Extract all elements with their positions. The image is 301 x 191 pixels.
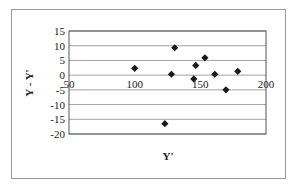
y-tick-label: 15 — [54, 25, 66, 37]
plot-area — [69, 31, 266, 134]
x-axis-ticks: 50100150200 — [64, 78, 275, 90]
data-point-diamond-icon — [171, 44, 178, 51]
y-axis-title: Y - Y' — [23, 69, 35, 96]
y-tick-label: -20 — [50, 128, 65, 140]
y-tick-label: 10 — [54, 40, 66, 52]
data-points — [131, 44, 241, 127]
data-point-diamond-icon — [192, 62, 199, 69]
data-point-diamond-icon — [161, 120, 168, 127]
gridlines — [69, 31, 266, 134]
data-point-diamond-icon — [168, 71, 175, 78]
scatter-plot: 151050-5-10-15-20 50100150200 Y' Y - Y' — [0, 0, 301, 191]
data-point-diamond-icon — [131, 65, 138, 72]
data-point-diamond-icon — [234, 68, 241, 75]
data-point-diamond-icon — [222, 86, 229, 93]
data-point-diamond-icon — [211, 71, 218, 78]
x-axis-title: Y' — [163, 150, 174, 162]
x-tick-label: 100 — [126, 78, 143, 90]
x-tick-label: 200 — [258, 78, 275, 90]
x-tick-label: 50 — [64, 78, 76, 90]
y-tick-label: -15 — [50, 113, 65, 125]
y-tick-label: 5 — [60, 54, 66, 66]
y-tick-label: -10 — [50, 99, 65, 111]
